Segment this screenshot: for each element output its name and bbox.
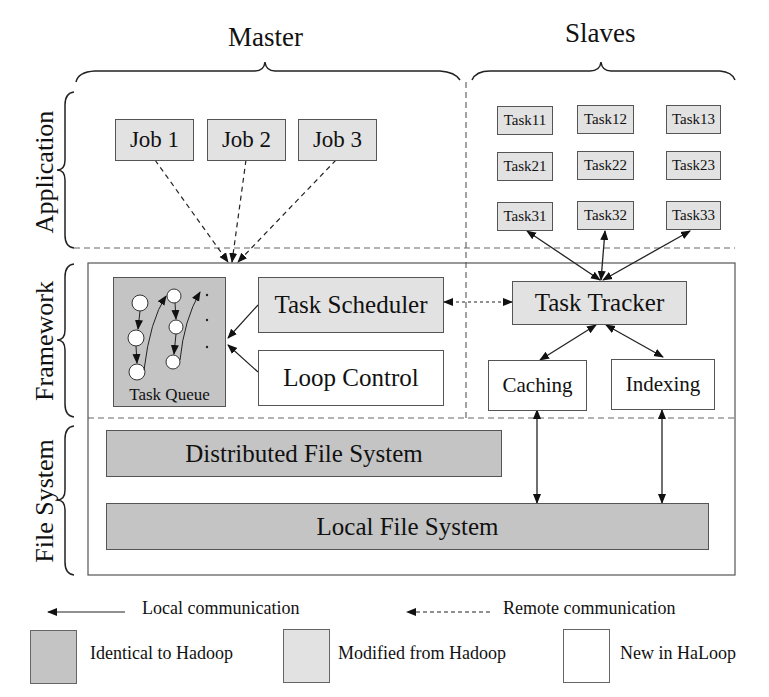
task-scheduler-box: Task Scheduler bbox=[258, 277, 444, 333]
distributed-file-system-box: Distributed File System bbox=[106, 430, 502, 477]
legend-local-communication: Local communication bbox=[142, 598, 299, 619]
caching-box: Caching bbox=[488, 360, 587, 411]
legend-modified: Modified from Hadoop bbox=[338, 643, 506, 664]
indexing-box: Indexing bbox=[611, 359, 715, 410]
loop-control-box: Loop Control bbox=[258, 350, 444, 406]
task-tracker-box: Task Tracker bbox=[512, 281, 687, 325]
local-file-system-box: Local File System bbox=[106, 503, 709, 550]
legend-swatch-modified bbox=[283, 629, 330, 683]
legend-swatch-new bbox=[563, 629, 610, 683]
task-queue-graph bbox=[0, 0, 769, 697]
legend-swatch-identical bbox=[30, 630, 77, 684]
legend-remote-communication: Remote communication bbox=[503, 598, 675, 619]
legend-identical: Identical to Hadoop bbox=[90, 643, 233, 664]
legend-new: New in HaLoop bbox=[620, 643, 736, 664]
